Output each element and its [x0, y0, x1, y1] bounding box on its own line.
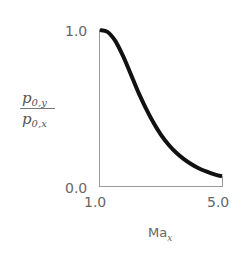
y-den-sub: 0,x: [32, 118, 48, 129]
chart: 1.0 0.0 1.0 5.0 Max p0,y p0,x: [0, 0, 251, 253]
x-label-main: Ma: [148, 225, 167, 240]
x-axis-label: Max: [148, 225, 172, 243]
y-tick-top: 1.0: [65, 23, 87, 39]
y-num-sub: 0,y: [32, 97, 48, 108]
x-tick-right: 5.0: [207, 194, 229, 210]
y-label-numerator: p0,y: [22, 89, 47, 108]
y-num-main: p: [22, 89, 32, 107]
x-tick-left: 1.0: [84, 194, 106, 210]
data-curve: [100, 30, 222, 176]
y-den-main: p: [22, 110, 32, 128]
y-label-denominator: p0,x: [22, 110, 47, 129]
x-label-sub: x: [167, 233, 172, 243]
